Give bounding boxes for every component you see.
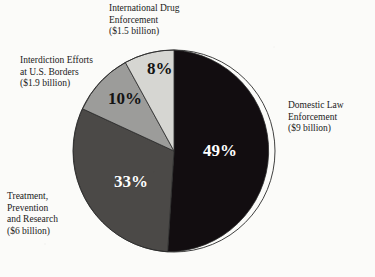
callout-line: ($9 billion) bbox=[288, 123, 344, 135]
callout-line: Enforcement bbox=[109, 15, 179, 27]
pie-chart-figure: 49% 33% 10% 8% International Drug Enforc… bbox=[0, 0, 375, 277]
pie-callout-interdiction-efforts: Interdiction Efforts at U.S. Borders ($1… bbox=[20, 55, 93, 90]
pie-value-label-interdiction-efforts: 10% bbox=[108, 90, 142, 107]
callout-line: ($1.5 billion) bbox=[109, 26, 179, 38]
callout-line: Treatment, bbox=[7, 191, 58, 203]
callout-line: Interdiction Efforts bbox=[20, 55, 93, 67]
callout-line: and Research bbox=[7, 214, 58, 226]
callout-line: Enforcement bbox=[288, 112, 344, 124]
pie-value-label-treatment-prevention-research: 33% bbox=[114, 173, 148, 190]
callout-line: International Drug bbox=[109, 3, 179, 15]
pie-value-label-domestic-law-enforcement: 49% bbox=[203, 142, 237, 159]
callout-line: at U.S. Borders bbox=[20, 67, 93, 79]
pie-callout-treatment-prevention-research: Treatment, Prevention and Research ($6 b… bbox=[7, 191, 58, 237]
callout-line: Domestic Law bbox=[288, 100, 344, 112]
pie-callout-international-drug-enforcement: International Drug Enforcement ($1.5 bil… bbox=[109, 3, 179, 38]
pie-value-label-international-drug-enforcement: 8% bbox=[147, 60, 173, 77]
callout-line: ($1.9 billion) bbox=[20, 78, 93, 90]
callout-line: Prevention bbox=[7, 203, 58, 215]
callout-line: ($6 billion) bbox=[7, 226, 58, 238]
pie-callout-domestic-law-enforcement: Domestic Law Enforcement ($9 billion) bbox=[288, 100, 344, 135]
